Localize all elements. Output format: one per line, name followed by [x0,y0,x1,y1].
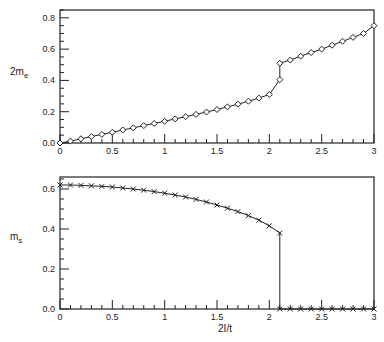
x-tick-label: 3 [371,312,376,322]
panel-top: 00.511.522.530.00.20.40.60.82me [10,10,377,156]
x-tick-label: 1.5 [211,146,224,156]
data-point-marker [340,38,346,44]
x-tick-label: 2 [267,312,272,322]
data-point-marker [267,223,272,228]
y-tick-label: 0.4 [42,224,55,234]
x-tick-label: 3 [371,146,376,156]
data-point-marker [256,218,261,223]
series-line [60,26,374,143]
data-point-marker [287,57,293,63]
data-point-marker [245,98,251,104]
data-point-marker [130,125,136,131]
x-tick-label: 1.5 [211,312,224,322]
y-tick-label: 0.8 [42,13,55,23]
data-point-marker [350,34,356,40]
figure: 00.511.522.530.00.20.40.60.82me 00.511.5… [0,0,384,342]
data-point-marker [151,120,157,126]
y-tick-label: 0.0 [42,304,55,314]
y-tick-label: 0.2 [42,264,55,274]
data-point-marker [141,123,147,129]
data-point-marker [78,136,84,142]
data-point-marker [193,111,199,117]
x-tick-label: 0 [57,146,62,156]
x-tick-label: 2 [267,146,272,156]
data-point-marker [204,109,210,115]
data-point-marker [329,42,335,48]
data-point-marker [99,131,105,137]
y-axis-label: ms [10,231,22,245]
data-point-marker [162,118,168,124]
y-tick-label: 0.6 [42,44,55,54]
series-line [60,185,374,309]
data-point-marker [183,114,189,120]
data-point-marker [298,53,304,59]
data-point-marker [120,127,126,133]
y-axis-label: 2me [10,66,29,80]
data-point-marker [172,116,178,122]
x-tick-label: 1 [162,312,167,322]
data-point-marker [308,50,314,56]
data-point-marker [277,77,283,83]
data-point-marker [266,91,272,97]
data-point-marker [224,104,230,110]
data-point-marker [88,134,94,140]
y-tick-label: 0.2 [42,107,55,117]
y-tick-label: 0.4 [42,75,55,85]
data-point-marker [277,60,283,66]
x-tick-label: 0 [57,312,62,322]
x-tick-label: 0.5 [106,146,119,156]
data-point-marker [256,95,262,101]
y-tick-label: 0.0 [42,138,55,148]
y-tick-label: 0.6 [42,184,55,194]
x-tick-label: 2.5 [315,312,328,322]
data-point-marker [235,101,241,107]
data-point-marker [214,107,220,113]
data-point-marker [319,46,325,52]
x-tick-label: 0.5 [106,312,119,322]
x-tick-label: 1 [162,146,167,156]
data-point-marker [235,209,240,214]
x-tick-label: 2.5 [315,146,328,156]
data-point-marker [246,213,251,218]
data-point-marker [109,129,115,135]
panel-bottom: 00.511.522.530.00.20.40.6ms2I/t [10,177,377,334]
chart-canvas: 00.511.522.530.00.20.40.60.82me 00.511.5… [0,0,384,342]
x-axis-label: 2I/t [218,323,232,334]
data-point-marker [225,206,230,211]
plot-frame [60,177,374,309]
plot-frame [60,10,374,143]
